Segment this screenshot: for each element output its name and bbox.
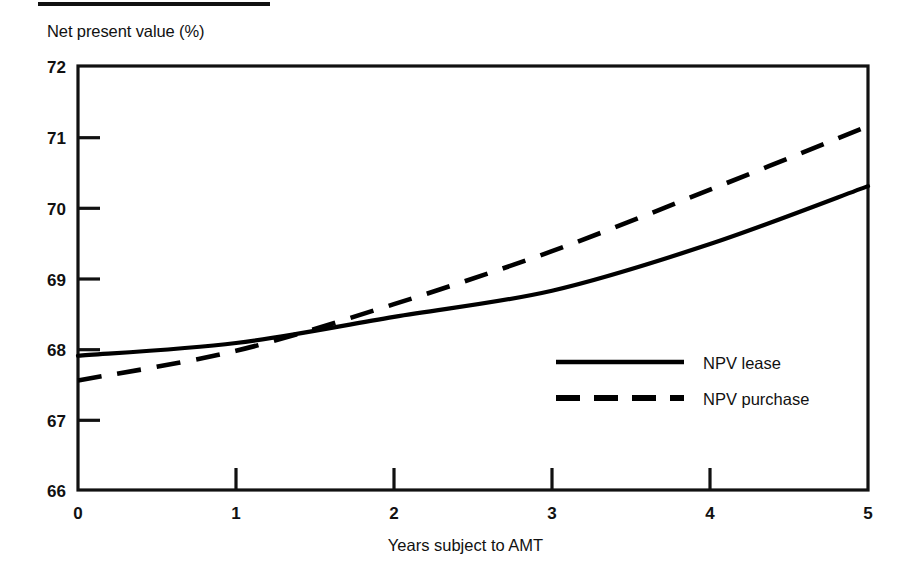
line-chart-plot: 72 71 70 69 68 67 66 0 1 2 3 4 5 NPV lea…	[0, 0, 917, 581]
x-tick-label: 1	[231, 504, 240, 523]
series-line-npv-purchase	[78, 126, 868, 380]
legend-label-npv-purchase: NPV purchase	[703, 390, 809, 408]
chart-figure: Net present value (%) 72 71 70 69 68 67	[0, 0, 917, 581]
x-tick-label: 3	[547, 504, 556, 523]
series-line-npv-lease	[78, 186, 868, 356]
y-axis-tick-labels: 72 71 70 69 68 67 66	[47, 58, 66, 501]
x-tick-label: 0	[73, 504, 82, 523]
y-tick-label: 68	[47, 341, 66, 360]
y-tick-label: 69	[47, 271, 66, 290]
chart-legend: NPV lease NPV purchase	[556, 354, 809, 408]
y-tick-label: 66	[47, 482, 66, 501]
x-axis-tick-labels: 0 1 2 3 4 5	[73, 504, 872, 523]
x-axis-ticks	[236, 468, 710, 490]
y-tick-label: 72	[47, 58, 66, 77]
x-tick-label: 5	[863, 504, 872, 523]
x-tick-label: 4	[705, 504, 715, 523]
y-tick-label: 70	[47, 200, 66, 219]
y-tick-label: 71	[47, 129, 66, 148]
x-axis-title: Years subject to AMT	[374, 536, 543, 554]
x-axis-title-wrap: Years subject to AMT	[0, 536, 917, 555]
y-tick-label: 67	[47, 412, 66, 431]
legend-label-npv-lease: NPV lease	[703, 354, 781, 372]
x-tick-label: 2	[389, 504, 398, 523]
